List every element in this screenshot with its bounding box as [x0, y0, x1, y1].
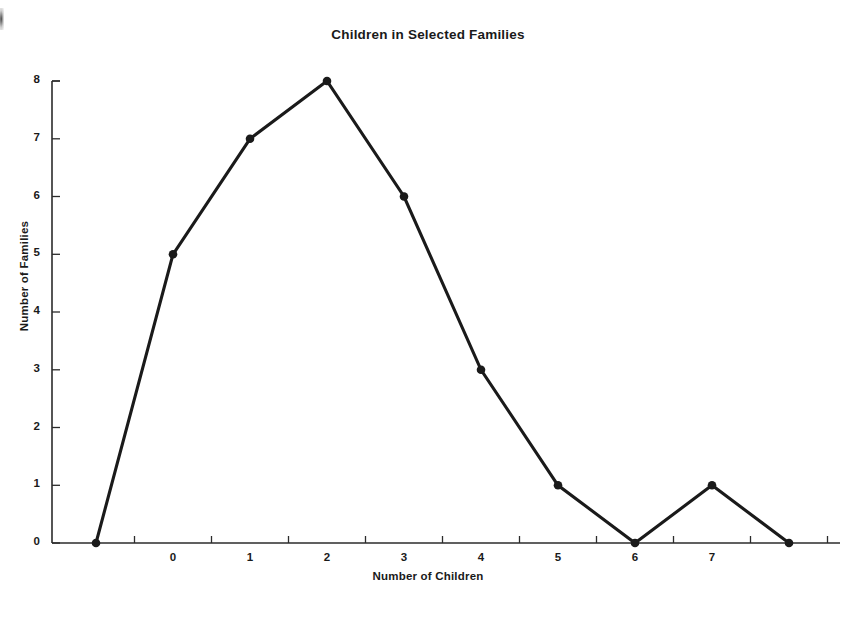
- data-point-marker: [400, 192, 409, 201]
- x-axis-tick-marks: [135, 536, 828, 543]
- chart-page: Children in Selected Families Number of …: [0, 0, 856, 618]
- x-axis-tick-label: 5: [538, 551, 578, 563]
- data-point-marker: [169, 250, 178, 259]
- y-axis-tick-marks: [52, 81, 60, 543]
- data-point-marker: [477, 366, 486, 375]
- x-axis-tick-label: 7: [692, 551, 732, 563]
- x-axis-tick-label: 3: [384, 551, 424, 563]
- y-axis-tick-label: 1: [14, 477, 40, 489]
- x-axis-tick-label: 2: [307, 551, 347, 563]
- plot-area: [0, 0, 856, 618]
- y-axis-tick-label: 4: [14, 304, 40, 316]
- data-point-markers: [92, 77, 794, 548]
- y-axis-tick-label: 7: [14, 131, 40, 143]
- data-point-marker: [323, 77, 332, 86]
- data-point-marker: [246, 135, 255, 144]
- x-axis: [52, 536, 840, 543]
- x-axis-tick-label: 6: [615, 551, 655, 563]
- y-axis-tick-label: 8: [14, 73, 40, 85]
- data-point-marker: [785, 539, 794, 548]
- x-axis-tick-label: 0: [153, 551, 193, 563]
- data-point-marker: [554, 481, 563, 490]
- y-axis-tick-label: 6: [14, 189, 40, 201]
- data-point-marker: [631, 539, 640, 548]
- data-line-series: [96, 81, 789, 543]
- y-axis-tick-label: 2: [14, 420, 40, 432]
- x-axis-tick-label: 1: [230, 551, 270, 563]
- x-axis-tick-label: 4: [461, 551, 501, 563]
- y-axis-tick-label: 5: [14, 246, 40, 258]
- y-axis-tick-label: 3: [14, 362, 40, 374]
- data-point-marker: [92, 539, 101, 548]
- y-axis-tick-label: 0: [14, 535, 40, 547]
- data-point-marker: [708, 481, 717, 490]
